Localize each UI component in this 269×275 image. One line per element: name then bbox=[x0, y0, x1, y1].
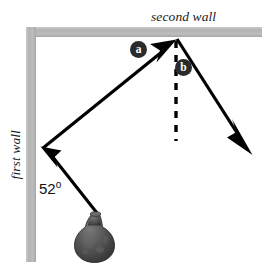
ray-b bbox=[177, 39, 253, 155]
second-wall-label: second wall bbox=[151, 10, 216, 24]
marker-a: a bbox=[130, 41, 147, 58]
first-wall-bar bbox=[26, 27, 36, 262]
ray-a bbox=[43, 40, 177, 149]
angle-value: 52 bbox=[39, 180, 56, 197]
diagram-canvas: second wall first wall 52o a b bbox=[0, 0, 269, 275]
angle-label: 52o bbox=[39, 180, 61, 196]
second-wall-bar bbox=[26, 27, 262, 37]
marker-b: b bbox=[175, 59, 192, 76]
vase bbox=[75, 212, 115, 263]
degree-symbol: o bbox=[56, 179, 62, 190]
first-wall-label: first wall bbox=[9, 130, 23, 179]
